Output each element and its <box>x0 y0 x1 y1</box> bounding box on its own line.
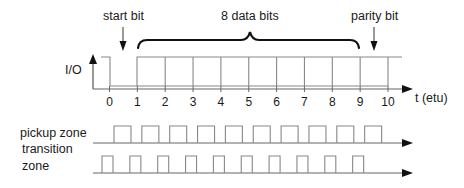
tick-label: 3 <box>190 96 197 108</box>
pulse <box>309 126 326 143</box>
pulse <box>102 156 113 173</box>
x-axis-arrow-icon <box>402 85 413 93</box>
pulse <box>269 156 280 173</box>
transition-zone-label-line2: zone <box>22 160 49 173</box>
start-bit-arrow <box>120 27 127 51</box>
tick-label: 7 <box>301 96 308 108</box>
pulse <box>225 126 242 143</box>
io-y-axis <box>89 54 97 89</box>
pulse <box>281 126 298 143</box>
y-axis-arrow-icon <box>89 54 97 64</box>
tick-label: 9 <box>357 96 364 108</box>
pulse <box>198 126 215 143</box>
tick-label: 4 <box>218 96 225 108</box>
pulse <box>253 126 270 143</box>
tick-label: 6 <box>273 96 280 108</box>
tick-label: 8 <box>329 96 336 108</box>
pulse <box>170 126 187 143</box>
parity-bit-arrow <box>371 27 378 51</box>
tick-label: 0 <box>106 96 113 108</box>
tick-label: 2 <box>162 96 169 108</box>
pulse <box>297 156 308 173</box>
pulse <box>186 156 197 173</box>
data-bits-label: 8 data bits <box>221 10 279 23</box>
pulse <box>337 126 354 143</box>
pulse <box>158 156 169 173</box>
pulse <box>213 156 224 173</box>
pulse <box>325 156 336 173</box>
data-bits-brace <box>138 32 359 48</box>
pulse <box>142 126 159 143</box>
io-signal-waveform <box>101 57 402 86</box>
pulse <box>241 156 252 173</box>
transition-zone-signal <box>93 156 413 177</box>
tick-label: 10 <box>381 96 394 108</box>
start-bit-label: start bit <box>103 10 144 23</box>
pulse <box>130 156 141 173</box>
time-axis-label: t (etu) <box>415 92 448 105</box>
transition-arrow-icon <box>402 169 413 177</box>
pulse <box>353 156 364 173</box>
tick-label: 5 <box>245 96 252 108</box>
pickup-zone-label: pickup zone <box>20 127 87 140</box>
pickup-zone-signal <box>93 126 413 147</box>
timing-diagram <box>0 0 464 188</box>
pickup-arrow-icon <box>402 139 413 147</box>
parity-bit-label: parity bit <box>351 10 398 23</box>
transition-zone-label-line1: transition <box>22 143 73 156</box>
tick-label: 1 <box>134 96 141 108</box>
pulse <box>114 126 131 143</box>
io-axis-label: I/O <box>65 64 82 77</box>
pulse <box>365 126 382 143</box>
